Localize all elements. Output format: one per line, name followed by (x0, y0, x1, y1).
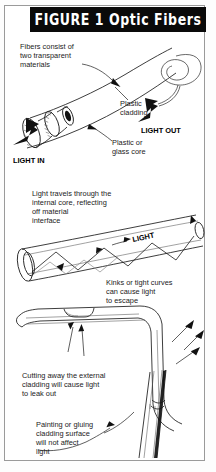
caption-cladding-line2: cladding (120, 108, 148, 117)
label-light-in: LIGHT IN (13, 156, 45, 165)
caption-painting-line1: Painting or gluing (36, 420, 93, 429)
figure-illustration: Fibers consist of two transparent materi… (0, 0, 216, 472)
caption-reflection-line2: internal core, reflecting (32, 198, 107, 207)
caption-reflection-line3: off material (32, 207, 69, 216)
caption-cladding-line1: Plastic (120, 99, 142, 108)
caption-painting-line4: light (36, 447, 50, 456)
middle-panel-captions: Light travels through the internal core,… (32, 189, 156, 244)
caption-reflection-line1: Light travels through the (32, 189, 111, 198)
caption-construction-line2: two transparent (20, 51, 71, 60)
bottom-panel-captions: Painting or gluing cladding surface will… (35, 420, 93, 456)
caption-construction-line1: Fibers consist of (20, 42, 75, 51)
caption-cutting-line2: cladding will cause light (22, 380, 99, 389)
caption-cutting-line1: Cutting away the external (22, 371, 106, 380)
label-light-out: LIGHT OUT (141, 126, 181, 135)
bent-panel-captions: Kinks or tight curves can cause light to… (22, 278, 173, 398)
caption-kinks-line3: to escape (106, 296, 138, 305)
caption-core-line2: glass core (112, 147, 146, 156)
middle-panel-artwork (15, 215, 206, 283)
figure-optic-fibers: FIGURE 1 Optic Fibers (0, 0, 216, 472)
bent-panel-artwork (16, 306, 204, 431)
caption-cutting-line3: to leak out (22, 389, 56, 398)
caption-kinks-line2: can cause light (106, 287, 155, 296)
caption-reflection-line4: interface (32, 216, 60, 225)
caption-core-line1: Plastic or (112, 138, 143, 147)
caption-kinks-line1: Kinks or tight curves (106, 278, 173, 287)
caption-painting-line3: will not affect (35, 438, 79, 447)
caption-construction-line3: materials (20, 60, 50, 69)
label-light-middle: LIGHT (132, 230, 156, 244)
caption-painting-line2: cladding surface (36, 429, 90, 438)
